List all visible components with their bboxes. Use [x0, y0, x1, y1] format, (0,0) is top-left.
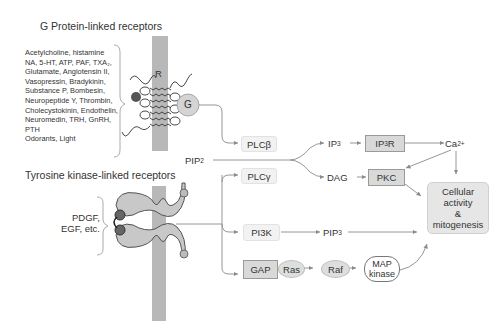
ras-node: Ras	[278, 260, 305, 278]
membrane-upper	[152, 36, 168, 151]
ligand-line: Neuropeptide Y, Thrombin,	[25, 96, 118, 106]
ip3-node: IP3	[328, 136, 341, 150]
plc-beta-node: PLCβ	[241, 136, 277, 152]
ligand-line: Glutamate, Angiotensin II,	[25, 67, 118, 77]
pi3k-node: PI3K	[243, 224, 280, 241]
ip3-receptor-node: IP3R	[365, 135, 405, 152]
ligand-dot	[131, 92, 141, 102]
g-protein-label: G	[184, 99, 192, 110]
ligand-line: PTH	[25, 125, 118, 135]
g-protein-ligand-list: Acetylcholine, histamine NA, 5-HT, ATP, …	[25, 48, 118, 144]
ligand-line: NA, 5-HT, ATP, PAF, TXA₂,	[25, 58, 118, 68]
tk-ligand-line: EGF, etc.	[55, 223, 100, 234]
rtk-dimer	[116, 183, 185, 257]
ligand-line: Odorants, Light	[25, 134, 118, 144]
pathway-arrows	[176, 105, 456, 274]
gap-node: GAP	[243, 260, 278, 279]
ligand-line: Cholecystokinin, Endothelin,	[25, 106, 118, 116]
tyrosine-kinase-section-title: Tyrosine kinase-linked receptors	[25, 169, 176, 181]
raf-node: Raf	[321, 260, 350, 278]
ligand-line: Neuromedin, TRH, GnRH,	[25, 115, 118, 125]
tk-ligand-list: PDGF, EGF, etc.	[55, 212, 100, 234]
calcium-node: Ca2+	[445, 136, 465, 150]
ligand-line: Substance P, Bombesin,	[25, 86, 118, 96]
ligand-line: Vasopressin, Bradykinin,	[25, 77, 118, 87]
phospho-site-top	[180, 189, 188, 197]
pkc-node: PKC	[368, 169, 405, 186]
ligand-line: Acetylcholine, histamine	[25, 48, 118, 58]
map-kinase-node: MAP kinase	[364, 256, 400, 282]
tk-ligand-line: PDGF,	[55, 212, 100, 223]
g-protein-section-title: G Protein-linked receptors	[40, 20, 162, 32]
receptor-label: R	[155, 68, 162, 79]
cellular-outcome-box: Cellular activity & mitogenesis	[427, 182, 489, 234]
pip2-label: PIP2	[185, 154, 204, 166]
pip3-node: PIP3	[323, 225, 342, 239]
plc-gamma-node: PLCγ	[241, 168, 277, 184]
dag-node: DAG	[327, 170, 348, 184]
phospho-site-bottom	[180, 250, 188, 258]
